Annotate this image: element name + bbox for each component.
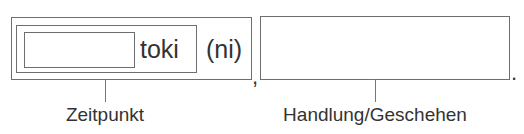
action-label: Handlung/Geschehen (283, 104, 467, 126)
period: . (511, 62, 517, 84)
toki-particle: toki (140, 35, 179, 63)
ni-optional-particle: (ni) (206, 35, 242, 63)
action-clause-box (260, 16, 510, 80)
action-connector-line (375, 79, 376, 102)
time-label: Zeitpunkt (66, 104, 144, 126)
clause-slot-box (24, 32, 135, 68)
comma: , (252, 66, 258, 88)
time-connector-line (105, 80, 106, 102)
